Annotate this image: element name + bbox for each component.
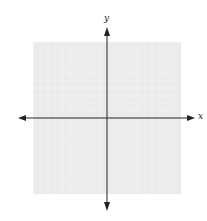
y-axis-down-arrow-icon [104,202,110,211]
x-axis-right-arrow-icon [187,115,195,121]
y-axis-label: y [104,14,109,23]
x-axis-left-arrow-icon [18,115,26,121]
coordinate-plane [0,0,207,221]
x-axis-label: x [198,112,203,121]
y-axis-up-arrow-icon [104,27,110,36]
